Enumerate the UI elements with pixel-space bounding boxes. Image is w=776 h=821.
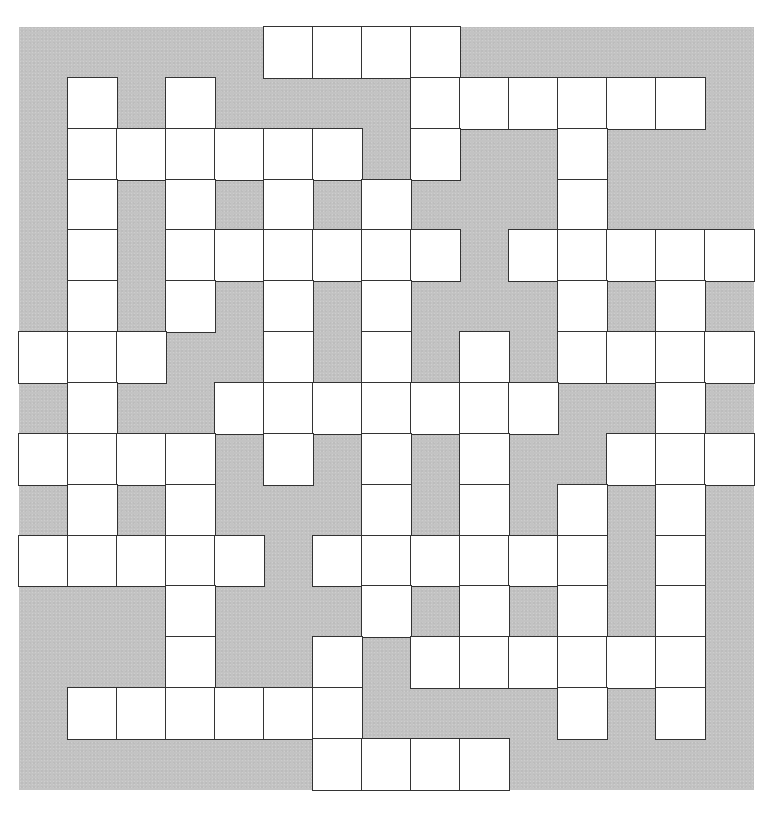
crossword-cell[interactable] — [558, 281, 607, 332]
crossword-cell[interactable] — [705, 434, 754, 485]
crossword-cell[interactable] — [460, 739, 509, 790]
crossword-cell[interactable] — [19, 434, 68, 485]
crossword-cell[interactable] — [509, 78, 558, 129]
crossword-cell[interactable] — [362, 383, 411, 434]
crossword-cell[interactable] — [215, 536, 264, 587]
crossword-cell[interactable] — [411, 637, 460, 688]
crossword-cell[interactable] — [607, 230, 656, 281]
crossword-cell[interactable] — [68, 129, 117, 180]
crossword-cell[interactable] — [166, 434, 215, 485]
crossword-cell[interactable] — [215, 383, 264, 434]
crossword-cell[interactable] — [117, 688, 166, 739]
crossword-cell[interactable] — [411, 230, 460, 281]
crossword-cell[interactable] — [460, 637, 509, 688]
crossword-cell[interactable] — [362, 586, 411, 637]
crossword-cell[interactable] — [705, 332, 754, 383]
crossword-cell[interactable] — [656, 332, 705, 383]
crossword-cell[interactable] — [264, 27, 313, 78]
crossword-cell[interactable] — [460, 78, 509, 129]
crossword-cell[interactable] — [705, 230, 754, 281]
crossword-cell[interactable] — [656, 230, 705, 281]
crossword-cell[interactable] — [166, 485, 215, 536]
crossword-cell[interactable] — [264, 383, 313, 434]
crossword-cell[interactable] — [68, 485, 117, 536]
crossword-cell[interactable] — [558, 78, 607, 129]
crossword-cell[interactable] — [509, 383, 558, 434]
crossword-cell[interactable] — [656, 536, 705, 587]
crossword-cell[interactable] — [166, 78, 215, 129]
crossword-cell[interactable] — [264, 688, 313, 739]
crossword-cell[interactable] — [656, 383, 705, 434]
crossword-cell[interactable] — [313, 383, 362, 434]
crossword-cell[interactable] — [313, 739, 362, 790]
crossword-cell[interactable] — [362, 230, 411, 281]
crossword-cell[interactable] — [509, 536, 558, 587]
crossword-cell[interactable] — [166, 637, 215, 688]
crossword-cell[interactable] — [362, 27, 411, 78]
crossword-cell[interactable] — [411, 383, 460, 434]
crossword-cell[interactable] — [166, 536, 215, 587]
crossword-cell[interactable] — [411, 536, 460, 587]
crossword-cell[interactable] — [460, 536, 509, 587]
crossword-cell[interactable] — [68, 281, 117, 332]
crossword-cell[interactable] — [509, 637, 558, 688]
crossword-cell[interactable] — [313, 27, 362, 78]
crossword-cell[interactable] — [607, 637, 656, 688]
crossword-cell[interactable] — [411, 27, 460, 78]
crossword-cell[interactable] — [362, 485, 411, 536]
crossword-cell[interactable] — [68, 180, 117, 231]
crossword-cell[interactable] — [68, 383, 117, 434]
crossword-cell[interactable] — [166, 129, 215, 180]
crossword-cell[interactable] — [68, 434, 117, 485]
crossword-cell[interactable] — [117, 332, 166, 383]
crossword-cell[interactable] — [264, 129, 313, 180]
crossword-cell[interactable] — [166, 688, 215, 739]
crossword-cell[interactable] — [313, 230, 362, 281]
crossword-cell[interactable] — [362, 739, 411, 790]
crossword-cell[interactable] — [607, 434, 656, 485]
crossword-cell[interactable] — [656, 78, 705, 129]
crossword-cell[interactable] — [460, 586, 509, 637]
crossword-cell[interactable] — [558, 688, 607, 739]
crossword-cell[interactable] — [460, 332, 509, 383]
crossword-cell[interactable] — [460, 485, 509, 536]
crossword-cell[interactable] — [166, 230, 215, 281]
crossword-cell[interactable] — [68, 332, 117, 383]
crossword-cell[interactable] — [362, 434, 411, 485]
crossword-cell[interactable] — [166, 586, 215, 637]
crossword-cell[interactable] — [509, 230, 558, 281]
crossword-cell[interactable] — [68, 78, 117, 129]
crossword-cell[interactable] — [558, 129, 607, 180]
crossword-cell[interactable] — [656, 485, 705, 536]
crossword-cell[interactable] — [215, 688, 264, 739]
crossword-cell[interactable] — [362, 536, 411, 587]
crossword-cell[interactable] — [264, 281, 313, 332]
crossword-cell[interactable] — [362, 180, 411, 231]
crossword-cell[interactable] — [19, 536, 68, 587]
crossword-cell[interactable] — [362, 281, 411, 332]
crossword-cell[interactable] — [68, 536, 117, 587]
crossword-cell[interactable] — [558, 332, 607, 383]
crossword-cell[interactable] — [313, 637, 362, 688]
crossword-cell[interactable] — [558, 536, 607, 587]
crossword-cell[interactable] — [313, 536, 362, 587]
crossword-cell[interactable] — [68, 688, 117, 739]
crossword-cell[interactable] — [264, 180, 313, 231]
crossword-cell[interactable] — [117, 434, 166, 485]
crossword-cell[interactable] — [656, 281, 705, 332]
crossword-cell[interactable] — [607, 78, 656, 129]
crossword-cell[interactable] — [264, 434, 313, 485]
crossword-cell[interactable] — [656, 637, 705, 688]
crossword-cell[interactable] — [411, 129, 460, 180]
crossword-cell[interactable] — [460, 434, 509, 485]
crossword-cell[interactable] — [656, 586, 705, 637]
crossword-cell[interactable] — [656, 434, 705, 485]
crossword-cell[interactable] — [215, 230, 264, 281]
crossword-cell[interactable] — [117, 129, 166, 180]
crossword-cell[interactable] — [558, 637, 607, 688]
crossword-cell[interactable] — [411, 739, 460, 790]
crossword-cell[interactable] — [264, 230, 313, 281]
crossword-cell[interactable] — [558, 180, 607, 231]
crossword-cell[interactable] — [656, 688, 705, 739]
crossword-cell[interactable] — [166, 180, 215, 231]
